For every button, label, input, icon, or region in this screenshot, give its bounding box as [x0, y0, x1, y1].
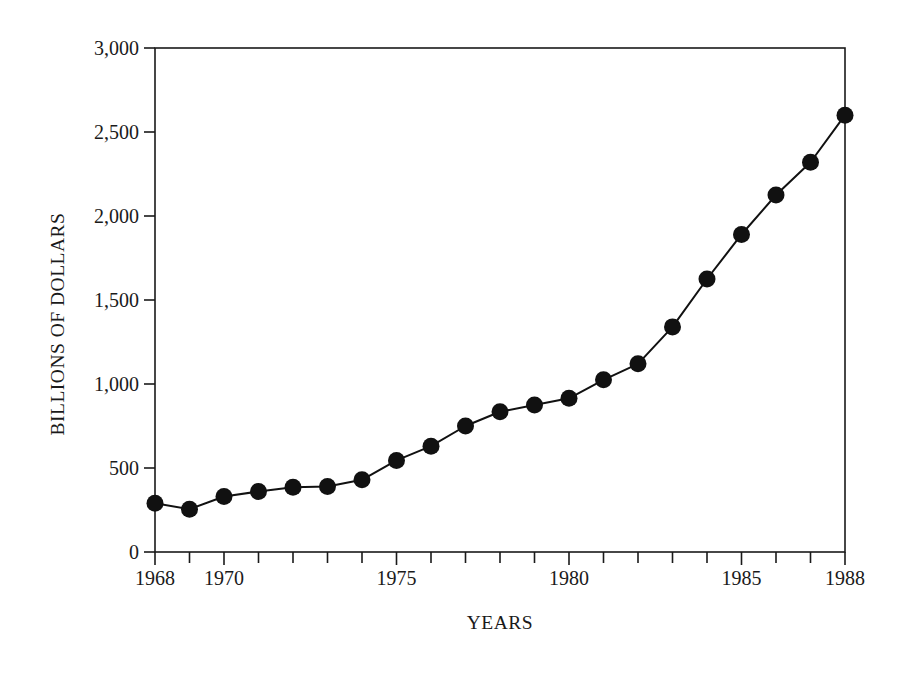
data-point-marker: [526, 397, 543, 414]
data-point-marker: [699, 271, 716, 288]
data-point-marker: [147, 495, 164, 512]
data-markers: [147, 107, 854, 518]
data-line: [155, 115, 845, 509]
data-point-marker: [250, 483, 267, 500]
axis-ticks: [144, 48, 845, 565]
data-point-marker: [285, 479, 302, 496]
plot-area: [0, 0, 904, 673]
data-point-marker: [423, 438, 440, 455]
data-point-marker: [630, 355, 647, 372]
data-point-marker: [354, 471, 371, 488]
data-point-marker: [561, 390, 578, 407]
data-point-marker: [595, 371, 612, 388]
plot-border: [155, 48, 845, 552]
data-point-marker: [733, 226, 750, 243]
data-point-marker: [216, 488, 233, 505]
data-point-marker: [837, 107, 854, 124]
chart-figure: BILLIONS OF DOLLARS YEARS 05001,0001,500…: [0, 0, 904, 673]
series-polyline: [155, 115, 845, 509]
data-point-marker: [181, 501, 198, 518]
data-point-marker: [319, 478, 336, 495]
data-point-marker: [664, 318, 681, 335]
data-point-marker: [388, 452, 405, 469]
data-point-marker: [802, 154, 819, 171]
axes: [155, 48, 845, 552]
data-point-marker: [492, 403, 509, 420]
data-point-marker: [768, 187, 785, 204]
data-point-marker: [457, 418, 474, 435]
